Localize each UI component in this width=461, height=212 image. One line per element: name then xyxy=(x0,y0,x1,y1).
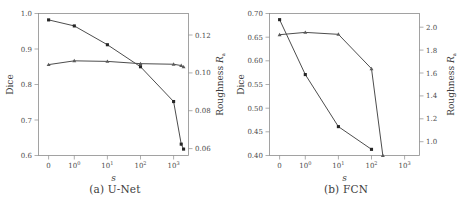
y-axis-label-a-roughness: Roughness Ra xyxy=(215,53,226,116)
x-tick-label-a-1: 100 xyxy=(68,160,80,170)
chart-panel-b-fcn: 0.70 0.65 0.60 0.55 0.50 0.45 0.40 Dice … xyxy=(231,0,461,212)
y-axis-label-b-dice: Dice xyxy=(236,74,246,94)
y2-tick-label-a-1: 0.10 xyxy=(195,69,211,77)
y-axis-left-b: 0.70 0.65 0.60 0.55 0.50 0.45 0.40 xyxy=(247,10,269,160)
data-point-square xyxy=(106,43,109,46)
y-axis-label-b-roughness: Roughness Ra xyxy=(446,53,457,116)
y-axis-left-a: 1.0 0.9 0.8 0.7 0.6 xyxy=(21,10,39,160)
y-tick-label-a-4: 0.6 xyxy=(21,152,33,160)
data-point-square xyxy=(47,18,50,21)
data-point-square xyxy=(278,18,281,21)
data-point-square xyxy=(337,125,340,128)
y2-tick-label-b-3: 1.4 xyxy=(426,92,438,100)
x-axis-b: 0 100 101 102 103 xyxy=(277,156,410,171)
x-tick-label-b-3: 102 xyxy=(365,160,377,170)
y-tick-label-a-0: 1.0 xyxy=(21,10,32,18)
plot-svg-a: 1.0 0.9 0.8 0.7 0.6 Dice 0.12 0.10 0.08 … xyxy=(0,0,230,183)
y2-tick-label-a-0: 0.12 xyxy=(195,32,211,40)
y-tick-label-b-1: 0.65 xyxy=(247,34,263,42)
y-tick-label-a-3: 0.7 xyxy=(21,117,32,125)
panel-caption-a: (a) U-Net xyxy=(0,183,230,195)
data-point-square xyxy=(180,143,183,146)
y2-tick-label-b-4: 1.2 xyxy=(426,115,437,123)
figure-two-panel-chart: 1.0 0.9 0.8 0.7 0.6 Dice 0.12 0.10 0.08 … xyxy=(0,0,461,212)
y2-tick-label-a-3: 0.06 xyxy=(195,145,211,153)
x-axis-a: 0 100 101 102 103 xyxy=(46,156,179,171)
series-a-roughness xyxy=(47,59,186,68)
x-tick-label-a-0: 0 xyxy=(46,162,50,170)
y2-tick-label-a-2: 0.08 xyxy=(195,107,211,115)
x-tick-label-a-4: 103 xyxy=(168,160,180,170)
y2-tick-label-b-0: 2.0 xyxy=(426,24,437,32)
y2-tick-label-b-2: 1.6 xyxy=(426,70,438,78)
y-axis-right-b: 2.0 1.8 1.6 1.4 1.2 1.0 xyxy=(420,24,438,147)
y-tick-label-b-2: 0.60 xyxy=(247,57,263,65)
data-point-square xyxy=(139,65,142,68)
y-tick-label-b-6: 0.40 xyxy=(247,152,263,160)
x-tick-label-b-1: 100 xyxy=(299,160,311,170)
y2-label-word-b: Roughness xyxy=(446,66,456,116)
x-tick-label-b-4: 103 xyxy=(399,160,411,170)
y-tick-label-b-4: 0.50 xyxy=(247,105,263,113)
y-axis-right-a: 0.12 0.10 0.08 0.06 xyxy=(189,32,212,154)
plot-svg-b: 0.70 0.65 0.60 0.55 0.50 0.45 0.40 Dice … xyxy=(231,0,461,183)
panel-caption-b: (b) FCN xyxy=(231,183,461,195)
y2-tick-label-b-5: 1.0 xyxy=(426,138,437,146)
plot-frame-b xyxy=(270,14,420,156)
x-tick-label-a-2: 101 xyxy=(101,160,113,170)
x-tick-label-a-3: 102 xyxy=(134,160,146,170)
series-b-dice xyxy=(278,18,373,151)
y-tick-label-b-3: 0.55 xyxy=(247,81,263,89)
plot-frame-a xyxy=(39,14,189,156)
data-point-square xyxy=(182,148,185,151)
data-point-square xyxy=(304,73,307,76)
y-tick-label-a-2: 0.8 xyxy=(21,81,32,89)
series-a-dice xyxy=(47,18,185,150)
x-tick-label-b-0: 0 xyxy=(277,162,281,170)
svg-text:Roughness Ra: Roughness Ra xyxy=(446,53,457,116)
chart-panel-a-unet: 1.0 0.9 0.8 0.7 0.6 Dice 0.12 0.10 0.08 … xyxy=(0,0,230,212)
y2-tick-label-b-1: 1.8 xyxy=(426,47,437,55)
x-axis-label-a: s xyxy=(111,173,116,183)
y-tick-label-b-5: 0.45 xyxy=(247,128,263,136)
x-axis-label-b: s xyxy=(342,173,347,183)
y-tick-label-b-0: 0.70 xyxy=(247,10,263,18)
svg-text:Roughness Ra: Roughness Ra xyxy=(215,53,226,116)
data-point-square xyxy=(73,24,76,27)
y-tick-label-a-1: 0.9 xyxy=(21,46,32,54)
y-axis-label-a-dice: Dice xyxy=(5,74,15,94)
x-tick-label-b-2: 101 xyxy=(332,160,344,170)
data-point-square xyxy=(172,100,175,103)
y2-label-word-a: Roughness xyxy=(215,66,225,116)
data-point-square xyxy=(370,148,373,151)
